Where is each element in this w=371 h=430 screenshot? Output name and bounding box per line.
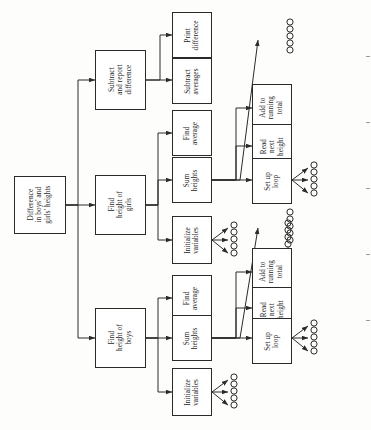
node-sum-heights-boys-label: Sumheights <box>184 327 201 348</box>
ellipsis-girls-init <box>231 222 237 256</box>
fan-line <box>292 338 308 351</box>
edge-height-boys-to-find-average <box>146 298 172 338</box>
node-find-height-of-boys-label: Findheight ofboys <box>108 325 133 352</box>
edge-sum-heights-boys-to-read-next-height <box>212 308 252 338</box>
edge-height-boys-to-initialize-variables <box>146 338 172 392</box>
node-initialize-variables-boys[interactable]: Initializevariables <box>172 368 212 416</box>
fan-line <box>292 326 308 338</box>
node-set-up-loop-boys[interactable]: Set uploop <box>252 318 292 364</box>
edge-group-subtract-report <box>146 35 172 80</box>
node-read-next-height-boys-label: Readnextheight <box>259 300 284 319</box>
node-find-height-of-boys[interactable]: Findheight ofboys <box>95 308 146 368</box>
ellipsis-fan-boys-init <box>212 380 228 405</box>
node-find-average-girls[interactable]: Findaverage <box>172 110 212 156</box>
edge-root-to-height-boys <box>66 205 95 338</box>
fan-line <box>292 180 308 193</box>
fan-line <box>212 228 228 240</box>
node-sum-heights-girls-label: Sumheights <box>184 169 201 190</box>
node-find-height-of-girls-label: Findheight ofgirls <box>108 192 133 219</box>
ellipsis-boys-loop <box>311 320 317 354</box>
node-find-average-girls-label: Findaverage <box>184 121 201 144</box>
node-set-up-loop-boys-label: Set uploop <box>264 332 281 351</box>
page-edge-tick <box>366 122 370 123</box>
ellipsis-girls-loop <box>311 162 317 196</box>
node-find-average-boys-label: Findaverage <box>184 286 201 309</box>
edge-height-girls-to-sum-heights <box>146 180 172 205</box>
fan-line <box>212 240 228 253</box>
fan-line <box>212 380 228 392</box>
node-sum-heights-girls[interactable]: Sumheights <box>172 157 212 203</box>
node-subtract-and-report-difference[interactable]: Subtractand reportdifference <box>95 50 146 110</box>
page-edge-tick <box>366 254 370 255</box>
edge-height-girls-to-find-average <box>146 133 172 205</box>
node-subtract-averages[interactable]: Subtractaverages <box>172 58 212 104</box>
ellipsis-boys-init <box>231 374 237 408</box>
edge-group-height-boys <box>146 298 172 392</box>
ellipsis-fan-girls-loop <box>292 168 308 193</box>
edge-subtract-report-to-print-difference <box>146 35 172 80</box>
node-add-to-running-total-girls-label: Add torunningtotal <box>259 96 284 119</box>
node-initialize-variables-girls[interactable]: Initializevariables <box>172 216 212 264</box>
node-root-label: Differencein boys' andgirls' heights <box>27 186 52 224</box>
ellipsis-fan-girls-init <box>212 228 228 253</box>
node-print-difference-label: Printdifference <box>184 20 201 50</box>
edge-height-girls-to-initialize-variables <box>146 205 172 240</box>
fan-line <box>212 392 228 405</box>
page-edge-tick <box>366 320 370 321</box>
edge-sum-heights-boys-to-add-to-running-total <box>212 272 252 338</box>
node-initialize-variables-boys-label: Initializevariables <box>184 379 201 406</box>
edge-group-height-girls <box>146 133 172 240</box>
node-initialize-variables-girls-label: Initializevariables <box>184 227 201 254</box>
edge-sum-heights-girls-to-read-next-height <box>212 146 252 180</box>
edge-sum-heights-girls-to-add-to-running-total <box>212 108 252 180</box>
node-read-next-height-girls-label: Readnextheight <box>259 137 284 156</box>
edge-group-root <box>66 80 95 338</box>
node-print-difference[interactable]: Printdifference <box>172 12 212 58</box>
page-edge-tick <box>366 188 370 189</box>
node-subtract-and-report-difference-label: Subtractand reportdifference <box>108 65 133 95</box>
fan-line <box>292 168 308 180</box>
node-set-up-loop-girls-label: Set uploop <box>264 172 281 191</box>
node-sum-heights-boys[interactable]: Sumheights <box>172 315 212 361</box>
node-set-up-loop-girls[interactable]: Set uploop <box>252 158 292 204</box>
edge-root-to-subtract-report <box>66 80 95 205</box>
node-subtract-averages-label: Subtractaverages <box>184 68 201 94</box>
diagram-page: Differencein boys' andgirls' heights Sub… <box>0 0 371 430</box>
node-root[interactable]: Differencein boys' andgirls' heights <box>14 176 66 234</box>
ellipsis-girls-sum <box>287 19 293 53</box>
node-find-height-of-girls[interactable]: Findheight ofgirls <box>95 175 146 235</box>
node-add-to-running-total-boys-label: Add torunningtotal <box>259 260 284 283</box>
ellipsis-fan-boys-loop <box>292 326 308 351</box>
page-edge-tick <box>366 56 370 57</box>
